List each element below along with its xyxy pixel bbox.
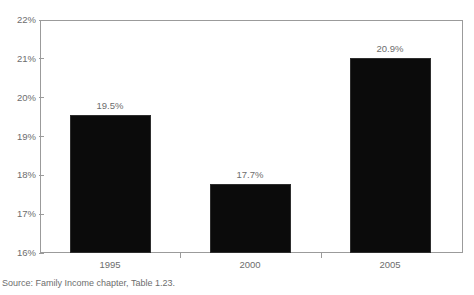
source-note: Source: Family Income chapter, Table 1.2…: [2, 277, 175, 289]
bar-chart-figure: 22% 21% 20% 19% 18% 17% 16% 19.5%: [0, 0, 474, 295]
x-axis-tick-mark: [321, 253, 322, 258]
x-axis-tick-mark: [180, 253, 181, 258]
x-axis-tick-label-1995: 1995: [65, 259, 155, 271]
x-axis-tick-label-2000: 2000: [205, 259, 295, 271]
x-axis: 1995 2000 2005: [0, 0, 474, 295]
x-axis-tick-label-2005: 2005: [345, 259, 435, 271]
